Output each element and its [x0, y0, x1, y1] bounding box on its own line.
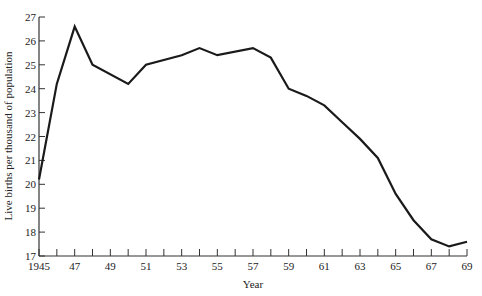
- y-tick-label: 23: [25, 107, 37, 119]
- x-tick-label: 65: [390, 260, 402, 272]
- y-tick-label: 25: [25, 59, 37, 71]
- x-tick-label: 63: [355, 260, 367, 272]
- y-tick-label: 19: [25, 202, 37, 214]
- series-layer: [39, 27, 467, 247]
- x-tick-label: 55: [212, 260, 224, 272]
- x-tick-label: 67: [426, 260, 438, 272]
- y-axis-title: Live births per thousand of population: [2, 51, 14, 220]
- x-tick-label: 53: [176, 260, 188, 272]
- y-tick-label: 27: [25, 11, 37, 23]
- x-tick-label: 59: [283, 260, 295, 272]
- y-tick-label: 21: [25, 154, 36, 166]
- y-tick-label: 24: [25, 83, 37, 95]
- y-tick-label: 18: [25, 226, 37, 238]
- birth-rate-line: [39, 27, 467, 247]
- x-axis: 1945474951535557596163656769: [28, 249, 473, 272]
- x-tick-label: 47: [69, 260, 81, 272]
- x-tick-label: 49: [105, 260, 117, 272]
- x-tick-label: 51: [141, 260, 152, 272]
- y-axis: 1718192021222324252627: [25, 11, 45, 262]
- y-tick-label: 20: [25, 178, 37, 190]
- x-axis-title: Year: [243, 278, 264, 290]
- x-tick-label: 61: [319, 260, 330, 272]
- y-tick-label: 26: [25, 35, 37, 47]
- birth-rate-line-chart: 1718192021222324252627 19454749515355575…: [0, 0, 482, 296]
- x-tick-label: 1945: [28, 260, 51, 272]
- x-tick-label: 69: [462, 260, 474, 272]
- y-tick-label: 22: [25, 131, 36, 143]
- x-tick-label: 57: [248, 260, 260, 272]
